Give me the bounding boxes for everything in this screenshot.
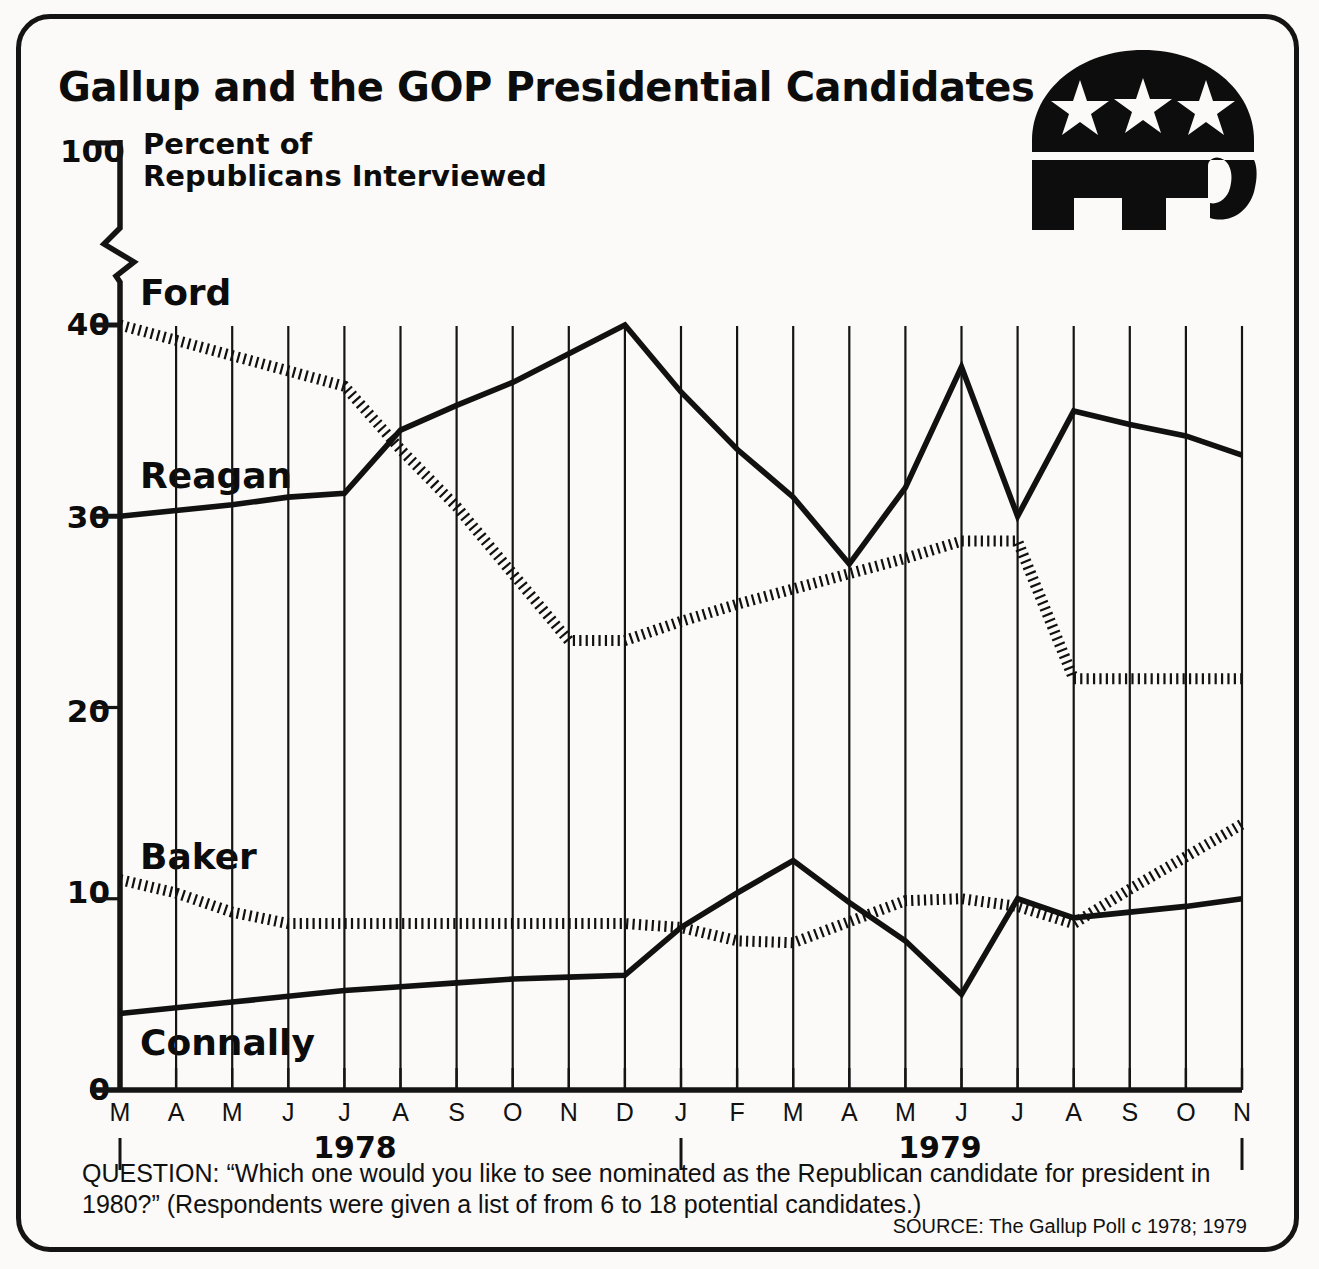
gop-elephant-logo [1018, 48, 1268, 230]
y-tick-10: 10 [38, 874, 110, 910]
series-label-reagan: Reagan [140, 455, 292, 496]
x-tick-label: D [605, 1098, 645, 1127]
x-tick-label: A [381, 1098, 421, 1127]
series-label-connally: Connally [140, 1022, 315, 1063]
x-tick-label: A [829, 1098, 869, 1127]
x-tick-label: S [437, 1098, 477, 1127]
chart-caption: QUESTION: “Which one would you like to s… [82, 1158, 1242, 1220]
y-tick-20: 20 [38, 693, 110, 729]
x-tick-label: N [549, 1098, 589, 1127]
x-tick-label: S [1110, 1098, 1150, 1127]
chart-source: SOURCE: The Gallup Poll c 1978; 1979 [893, 1215, 1247, 1238]
y-tick-40: 40 [38, 306, 110, 342]
x-tick-label: O [493, 1098, 533, 1127]
series-label-ford: Ford [140, 272, 231, 313]
series-label-baker: Baker [140, 836, 257, 877]
x-tick-label: J [268, 1098, 308, 1127]
x-tick-label: A [156, 1098, 196, 1127]
x-tick-label: J [998, 1098, 1038, 1127]
y-axis-title: Percent of Republicans Interviewed [143, 128, 547, 193]
chart-page: Gallup and the GOP Presidential Candidat… [0, 0, 1319, 1269]
y-tick-30: 30 [38, 499, 110, 535]
x-tick-label: J [942, 1098, 982, 1127]
y-axis-top-tick-label: 100 [60, 133, 125, 169]
x-tick-label: M [885, 1098, 925, 1127]
x-tick-label: M [773, 1098, 813, 1127]
x-tick-label: F [717, 1098, 757, 1127]
x-tick-label: M [212, 1098, 252, 1127]
x-tick-label: M [100, 1098, 140, 1127]
x-tick-label: J [661, 1098, 701, 1127]
x-tick-label: N [1222, 1098, 1262, 1127]
x-tick-label: A [1054, 1098, 1094, 1127]
x-tick-label: O [1166, 1098, 1206, 1127]
page-title: Gallup and the GOP Presidential Candidat… [58, 64, 1034, 110]
x-tick-label: J [324, 1098, 364, 1127]
